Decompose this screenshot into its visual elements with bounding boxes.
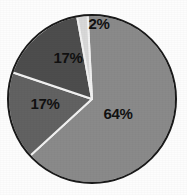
pie-chart-svg: 64% 17% 17% 2% <box>0 0 187 195</box>
pie-label-2: 2% <box>88 15 109 32</box>
pie-label-17-lower: 17% <box>30 95 59 112</box>
pie-label-64: 64% <box>103 105 132 122</box>
pie-label-17-upper: 17% <box>53 49 82 66</box>
pie-chart-figure: 64% 17% 17% 2% <box>0 0 187 195</box>
